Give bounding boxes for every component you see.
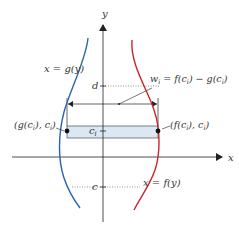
point-f-label: (f(ci), ci)	[170, 119, 210, 132]
diagram-svg: y x d c ci x = g(y) x = f(y) wi = f(ci) …	[0, 0, 239, 227]
d-label: d	[92, 80, 98, 91]
c-label: c	[92, 181, 98, 192]
g-curve-label: x = g(y)	[44, 63, 84, 74]
y-axis-label: y	[101, 8, 108, 19]
x-axis-label: x	[228, 152, 234, 163]
f-curve-label: x = f(y)	[143, 177, 181, 188]
width-formula-label: wi = f(ci) − g(ci)	[150, 73, 228, 86]
strip-rectangle	[67, 126, 158, 138]
width-label-leader	[119, 88, 152, 104]
point-f-ci	[156, 129, 161, 134]
point-g-ci	[65, 129, 70, 134]
point-g-label: (g(ci), ci)	[14, 119, 56, 132]
diagram-canvas: y x d c ci x = g(y) x = f(y) wi = f(ci) …	[0, 0, 239, 227]
